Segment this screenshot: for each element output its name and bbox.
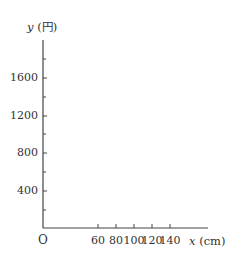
x-var-label: x [189, 234, 196, 248]
y-var-label: y [27, 20, 34, 34]
chart-canvas [0, 0, 236, 263]
y-tick-label-1600: 1600 [0, 72, 38, 83]
y-tick-label-1200: 1200 [0, 110, 38, 121]
x-unit-label: (cm) [199, 234, 225, 248]
x-axis-title: x (cm) [189, 236, 225, 248]
x-tick-label-140: 140 [158, 235, 182, 246]
y-unit-label: (円) [37, 20, 57, 34]
y-tick-label-800: 800 [0, 147, 38, 158]
y-axis-title: y (円) [27, 22, 57, 34]
y-tick-label-400: 400 [0, 185, 38, 196]
origin-label: O [38, 234, 48, 246]
